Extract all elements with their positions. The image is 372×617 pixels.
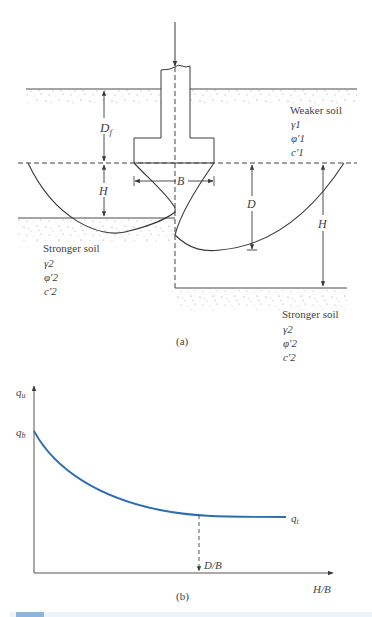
failure-surface-right <box>175 163 344 251</box>
panel-label-b: (b) <box>176 590 189 603</box>
figure-canvas: HDf H B D H Weaker soil γ1 φ'1 c'1 Stron… <box>0 0 372 617</box>
h-left-label: H <box>98 184 109 198</box>
x-axis-label: H/B <box>312 583 331 595</box>
weaker-soil-label: Weaker soil <box>290 104 342 116</box>
qt-label: qt <box>291 512 300 526</box>
weak-soil-texture-left <box>26 90 161 104</box>
caption-fragment <box>10 612 372 617</box>
weaker-gamma: γ1 <box>291 118 301 130</box>
weaker-phi: φ'1 <box>291 132 305 144</box>
figure-a: HDf H B D H Weaker soil γ1 φ'1 c'1 Stron… <box>18 22 357 363</box>
qu-curve <box>34 431 286 517</box>
stronger-soil-right-label: Stronger soil <box>282 308 339 320</box>
stronger-left-gamma: γ2 <box>44 257 54 269</box>
h-right-label: H <box>317 217 328 231</box>
caption-figure-tag <box>16 612 44 617</box>
panel-label-a: (a) <box>176 335 189 348</box>
d-label: D <box>246 197 256 211</box>
stronger-left-phi: φ'2 <box>44 271 58 283</box>
stronger-right-phi: φ'2 <box>283 337 297 349</box>
y-axis-label: qu <box>16 386 26 400</box>
stronger-left-c: c'2 <box>44 285 57 297</box>
stronger-right-c: c'2 <box>283 351 296 363</box>
stronger-soil-left-label: Stronger soil <box>43 242 100 254</box>
weak-soil-texture-right <box>190 90 357 104</box>
strong-soil-texture-right <box>176 290 347 310</box>
footing <box>134 65 214 163</box>
db-label: D/B <box>203 559 222 571</box>
qb-label: qb <box>16 426 26 440</box>
figure-b: qu qb qt D/B H/B (b) <box>16 386 333 603</box>
weaker-c: c'1 <box>291 146 304 158</box>
stronger-right-gamma: γ2 <box>283 323 293 335</box>
b-label: B <box>177 174 185 188</box>
